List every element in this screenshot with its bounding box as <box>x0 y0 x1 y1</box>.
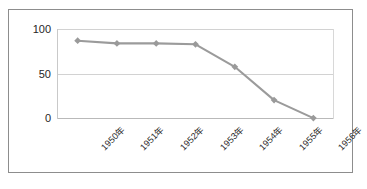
x-tick-label-1954年: 1954年 <box>256 123 286 153</box>
x-tick-label-1952年: 1952年 <box>177 123 207 153</box>
x-tick-label-1951年: 1951年 <box>137 123 167 153</box>
data-point-1956年 <box>310 115 317 122</box>
y-tick-label-50: 50 <box>17 68 51 80</box>
plot-area <box>57 29 334 119</box>
data-point-1950年 <box>74 37 81 44</box>
data-point-1951年 <box>114 40 121 47</box>
x-tick-label-1953年: 1953年 <box>216 123 246 153</box>
y-tick-label-0: 0 <box>17 112 51 124</box>
x-tick-label-1950年: 1950年 <box>97 123 127 153</box>
line-series <box>58 29 333 119</box>
data-point-1952年 <box>153 40 160 47</box>
y-tick-label-100: 100 <box>17 23 51 35</box>
x-tick-label-1955年: 1955年 <box>295 123 325 153</box>
x-tick-label-1956年: 1956年 <box>335 123 365 153</box>
plot-wrapper: 100 50 0 1950年1951年1952年1953年1954年1955年1… <box>9 10 352 172</box>
chart-frame: 100 50 0 1950年1951年1952年1953年1954年1955年1… <box>8 9 353 173</box>
